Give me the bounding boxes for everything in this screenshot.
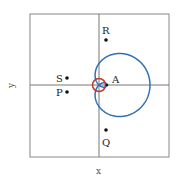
x-axis-label: x	[96, 166, 101, 176]
label-S: S	[56, 73, 63, 84]
point-R	[104, 38, 108, 42]
point-Q	[104, 128, 108, 132]
label-P: P	[56, 87, 63, 98]
y-axis-label: y	[6, 82, 16, 89]
point-P	[65, 90, 69, 94]
label-A: A	[111, 74, 120, 85]
point-S	[65, 76, 69, 80]
label-R: R	[102, 25, 110, 36]
label-Q: Q	[102, 137, 110, 148]
point-A	[106, 84, 109, 87]
limacon-diagram: R S P A Q x y	[0, 0, 178, 180]
